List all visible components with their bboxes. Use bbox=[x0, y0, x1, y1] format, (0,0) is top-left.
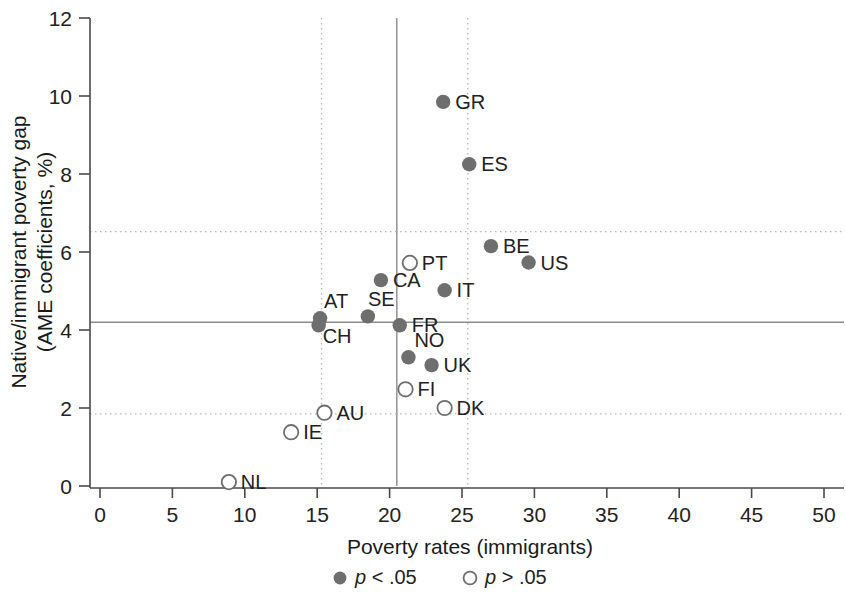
x-axis-tick-label: 20 bbox=[378, 503, 401, 526]
data-point-no[interactable]: NO bbox=[401, 329, 444, 364]
point-label-pt: PT bbox=[422, 252, 448, 274]
x-axis-tick-label: 45 bbox=[740, 503, 763, 526]
data-point-nl[interactable]: NL bbox=[222, 471, 267, 493]
y-axis-tick-label: 0 bbox=[60, 475, 72, 498]
plot-canvas: 05101520253035404550 024681012 GRESBEUSP… bbox=[0, 0, 845, 601]
chart-legend: p < .05p > .05 bbox=[334, 566, 547, 588]
x-axis-title: Poverty rates (immigrants) bbox=[347, 535, 593, 558]
point-label-at: AT bbox=[324, 290, 348, 312]
data-point-ie[interactable]: IE bbox=[284, 421, 322, 443]
point-marker bbox=[374, 273, 388, 287]
point-marker bbox=[403, 256, 417, 270]
data-point-fi[interactable]: FI bbox=[398, 378, 435, 400]
y-axis-tick-label: 2 bbox=[60, 397, 72, 420]
point-label-no: NO bbox=[414, 329, 444, 351]
x-axis-tick-label: 50 bbox=[812, 503, 835, 526]
x-axis-ticks-group: 05101520253035404550 bbox=[94, 488, 836, 526]
point-label-nl: NL bbox=[241, 471, 267, 493]
x-axis-tick-label: 40 bbox=[668, 503, 691, 526]
point-marker bbox=[436, 95, 450, 109]
data-point-se[interactable]: SE bbox=[361, 288, 395, 323]
point-label-us: US bbox=[541, 252, 569, 274]
point-marker bbox=[361, 309, 375, 323]
legend-label-hollow: p > .05 bbox=[484, 566, 547, 588]
point-marker bbox=[521, 255, 535, 269]
y-axis-title-line2: (AME coefficients, %) bbox=[33, 152, 56, 352]
x-axis-tick-label: 5 bbox=[167, 503, 179, 526]
point-marker bbox=[401, 350, 415, 364]
point-label-ca: CA bbox=[393, 269, 421, 291]
point-marker bbox=[484, 239, 498, 253]
y-axis-tick-label: 12 bbox=[49, 7, 72, 30]
y-axis-tick-label: 6 bbox=[60, 241, 72, 264]
x-axis-tick-label: 15 bbox=[306, 503, 329, 526]
point-label-gr: GR bbox=[455, 91, 485, 113]
point-label-se: SE bbox=[368, 288, 395, 310]
legend-item-hollow[interactable]: p > .05 bbox=[464, 566, 547, 588]
point-label-fi: FI bbox=[418, 378, 436, 400]
point-marker bbox=[393, 318, 407, 332]
data-point-dk[interactable]: DK bbox=[437, 397, 485, 419]
x-axis-tick-label: 30 bbox=[523, 503, 546, 526]
data-point-gr[interactable]: GR bbox=[436, 91, 485, 113]
point-marker bbox=[437, 283, 451, 297]
point-marker bbox=[284, 425, 298, 439]
legend-filled-circle-icon bbox=[334, 572, 347, 585]
point-label-it: IT bbox=[457, 279, 475, 301]
legend-item-filled[interactable]: p < .05 bbox=[334, 566, 417, 588]
point-label-dk: DK bbox=[457, 397, 485, 419]
point-marker bbox=[222, 475, 236, 489]
data-points-group: GRESBEUSPTCAITSEATCHFRNOUKFIDKAUIENL bbox=[222, 91, 569, 493]
point-label-ch: CH bbox=[323, 325, 352, 347]
point-label-be: BE bbox=[503, 235, 530, 257]
point-marker bbox=[398, 382, 412, 396]
legend-hollow-circle-icon bbox=[464, 572, 477, 585]
axis-titles-group: Poverty rates (immigrants)Native/immigra… bbox=[7, 115, 593, 558]
point-label-au: AU bbox=[336, 402, 364, 424]
y-axis-tick-label: 10 bbox=[49, 85, 72, 108]
y-axis-tick-label: 4 bbox=[60, 319, 72, 342]
data-point-uk[interactable]: UK bbox=[424, 354, 472, 376]
x-axis-tick-label: 35 bbox=[595, 503, 618, 526]
data-point-be[interactable]: BE bbox=[484, 235, 530, 257]
scatter-chart-figure: 05101520253035404550 024681012 GRESBEUSP… bbox=[0, 0, 845, 601]
data-point-it[interactable]: IT bbox=[437, 279, 474, 301]
data-point-au[interactable]: AU bbox=[317, 402, 364, 424]
point-label-ie: IE bbox=[303, 421, 322, 443]
point-marker bbox=[424, 358, 438, 372]
point-marker bbox=[462, 157, 476, 171]
x-axis-tick-label: 10 bbox=[233, 503, 256, 526]
point-marker bbox=[437, 401, 451, 415]
x-axis-tick-label: 0 bbox=[94, 503, 106, 526]
data-point-es[interactable]: ES bbox=[462, 153, 508, 175]
y-axis-title-line1: Native/immigrant poverty gap bbox=[7, 115, 30, 388]
y-axis-tick-label: 8 bbox=[60, 163, 72, 186]
legend-label-filled: p < .05 bbox=[354, 566, 417, 588]
point-label-uk: UK bbox=[444, 354, 472, 376]
x-axis-tick-label: 25 bbox=[450, 503, 473, 526]
point-label-es: ES bbox=[481, 153, 508, 175]
point-marker bbox=[317, 405, 331, 419]
